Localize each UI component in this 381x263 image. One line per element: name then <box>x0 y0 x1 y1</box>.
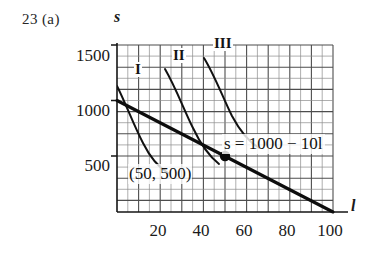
curve-label-III: III <box>213 36 233 51</box>
budget-equation-label: s = 1000 − 10l <box>222 134 325 154</box>
optimal-point-label: (50, 500) <box>128 164 192 184</box>
figure-canvas: 23 (a) s l 1500 1000 500 20 40 60 80 100 <box>0 0 381 263</box>
plot-svg <box>0 0 381 263</box>
curve-label-II: II <box>172 48 186 63</box>
curve-label-I: I <box>134 62 142 77</box>
axis-lines <box>117 43 348 212</box>
